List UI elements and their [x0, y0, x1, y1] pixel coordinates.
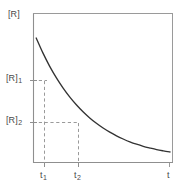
x-axis-ticks: [45, 163, 170, 167]
decay-curve: [36, 38, 170, 152]
y-axis-label: [R]: [8, 10, 20, 19]
plot-frame: [33, 13, 173, 163]
r1-value-label: [R]1: [6, 74, 22, 84]
decay-curve-plot: [0, 0, 195, 195]
r2-value-label: [R]2: [6, 116, 22, 126]
chart-figure: [R] [R]1 [R]2 t1 t2 t: [0, 0, 195, 195]
x-axis-label: t: [167, 171, 170, 180]
t2-value-label: t2: [74, 171, 81, 181]
t1-value-label: t1: [40, 171, 47, 181]
guide-lines: [33, 81, 79, 164]
